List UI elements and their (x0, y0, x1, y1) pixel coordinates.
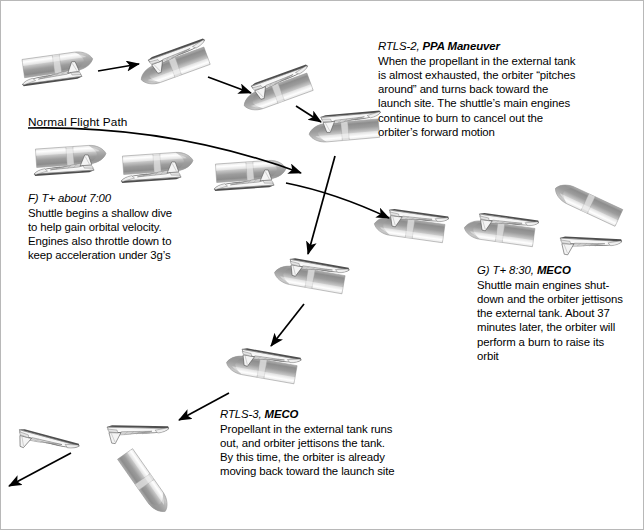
note-body-rtls-2: When the propellant in the external tank… (378, 54, 633, 139)
arrow-crossing-down (308, 156, 335, 254)
note-header-rtls-2: RTLS-2, PPA Maneuver (378, 39, 633, 53)
note-body-step-g: Shuttle main engines shut- down and the … (477, 278, 644, 363)
note-step-f: F) T+ about 7:00Shuttle begins a shallow… (28, 191, 228, 263)
arrow-ascent-to-pitch (98, 64, 139, 71)
note-header-step-f: F) T+ about 7:00 (28, 191, 228, 205)
stack-return-1 (273, 255, 350, 294)
normal-flight-path-label: Normal Flight Path (28, 115, 128, 129)
stack-pitch-1 (135, 38, 213, 88)
note-header-step-g: G) T+ 8:30, MECO (477, 263, 644, 277)
note-header-rtls-3: RTLS-3, MECO (220, 407, 435, 421)
orbiter-meco-r (559, 236, 622, 257)
note-body-step-f: Shuttle begins a shallow dive to help ga… (28, 206, 228, 263)
tank-jettison-r (552, 180, 623, 226)
tank-falling (118, 449, 173, 517)
stack-meco-1 (373, 206, 449, 243)
stack-dive-1 (32, 144, 107, 176)
arrow-orbiter-fly-left (9, 453, 71, 486)
note-header-emphasis-rtls-3: MECO (265, 408, 299, 420)
arrow-return-down (271, 304, 304, 346)
arrow-pitch1-to-pitch2 (208, 77, 251, 93)
stack-dive-2 (119, 151, 194, 183)
note-header-emphasis-rtls-2: PPA Maneuver (423, 40, 500, 52)
stack-return-2 (225, 345, 302, 384)
stack-pitch-2 (238, 64, 316, 114)
orbiter-rtls-1 (107, 425, 169, 444)
note-rtls-3: RTLS-3, MECOPropellant in the external t… (220, 407, 435, 479)
arrow-pitch2-to-pitch3 (296, 106, 321, 122)
orbiter-rtls-2 (15, 428, 80, 462)
stack-ascent-1 (19, 50, 95, 87)
diagram-canvas: Normal Flight Path RTLS-2, PPA ManeuverW… (0, 0, 644, 530)
note-step-g: G) T+ 8:30, MECOShuttle main engines shu… (477, 263, 644, 363)
stack-meco-2 (463, 210, 539, 247)
note-rtls-2: RTLS-2, PPA ManeuverWhen the propellant … (378, 39, 633, 139)
note-header-emphasis-step-g: MECO (537, 264, 571, 276)
note-body-rtls-3: Propellant in the external tank runs out… (220, 422, 435, 479)
stack-pitch-3 (308, 110, 383, 143)
arrow-crossing-right (286, 183, 389, 218)
